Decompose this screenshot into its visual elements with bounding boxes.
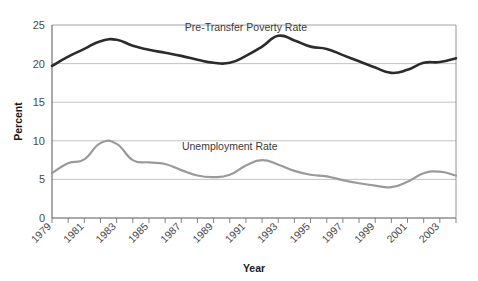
x-tick-label-1993: 1993 xyxy=(255,220,280,245)
y-tick-label-10: 10 xyxy=(33,135,45,147)
x-tick-label-2003: 2003 xyxy=(416,220,441,245)
x-tick-label-1999: 1999 xyxy=(352,220,377,245)
x-tick-label-1997: 1997 xyxy=(319,220,344,245)
gridlines xyxy=(52,25,456,179)
y-tick-label-20: 20 xyxy=(33,58,45,70)
x-axis-tick-labels: 1979198119831985198719891991199319951997… xyxy=(28,220,441,245)
x-tick-label-1987: 1987 xyxy=(158,220,183,245)
line-chart: 0510152025 19791981198319851987198919911… xyxy=(0,0,478,281)
series-label-2: Unemployment Rate xyxy=(182,140,278,152)
series-label-1: Pre-Transfer Poverty Rate xyxy=(185,21,307,33)
series-line-1 xyxy=(52,35,456,73)
y-axis-title: Percent xyxy=(12,102,24,141)
x-tick-label-1981: 1981 xyxy=(61,220,86,245)
series-labels: Pre-Transfer Poverty RateUnemployment Ra… xyxy=(182,21,307,152)
x-tick-label-1985: 1985 xyxy=(125,220,150,245)
axis-titles: PercentYear xyxy=(12,102,265,274)
data-series xyxy=(52,35,456,187)
x-axis-ticks xyxy=(52,218,456,223)
x-tick-label-2001: 2001 xyxy=(384,220,409,245)
x-axis-title: Year xyxy=(243,262,265,274)
x-tick-label-1989: 1989 xyxy=(190,220,215,245)
y-axis-tick-labels: 0510152025 xyxy=(33,19,45,224)
chart-container: 0510152025 19791981198319851987198919911… xyxy=(0,0,478,281)
x-axis-line xyxy=(52,25,456,218)
y-tick-label-5: 5 xyxy=(39,173,45,185)
x-tick-label-1995: 1995 xyxy=(287,220,312,245)
y-tick-label-15: 15 xyxy=(33,96,45,108)
y-tick-label-25: 25 xyxy=(33,19,45,31)
x-tick-label-1979: 1979 xyxy=(28,220,53,245)
x-tick-label-1991: 1991 xyxy=(222,220,247,245)
x-tick-label-1983: 1983 xyxy=(93,220,118,245)
